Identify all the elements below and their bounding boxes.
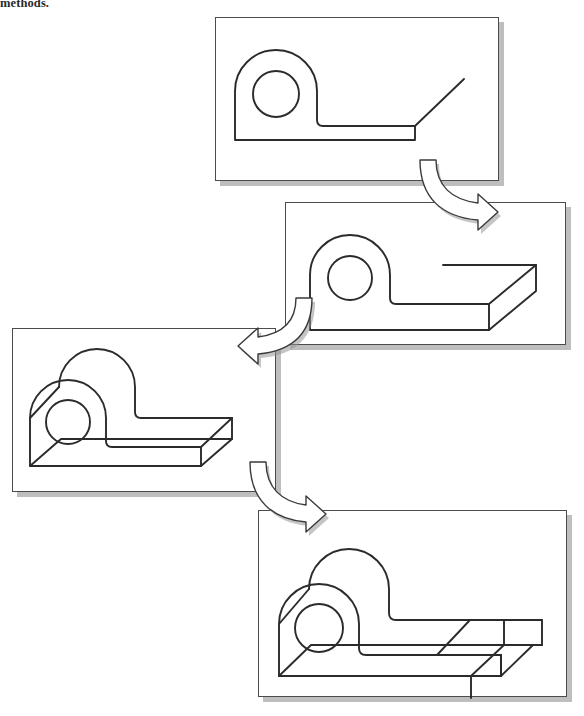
panel-1-drawing [216,18,500,182]
figure-root: methods. [0,0,584,716]
slot-left-inner-edge [437,620,470,655]
extrusion-direction-line [415,79,464,126]
caption-text: methods. [0,0,49,11]
panel-step-4 [258,510,567,697]
base-front-right-chamfer [501,645,533,676]
profile-outline [235,50,415,140]
bore-circle [328,256,372,300]
bore-circle [253,71,299,117]
panel-3-drawing [13,329,277,493]
panel-step-3 [12,328,276,492]
panel-step-1 [215,17,499,181]
base-back-bottom-edge [279,645,504,676]
panel-4-drawing [259,511,568,698]
panel-2-drawing [286,203,567,346]
profile-front-face [279,584,501,676]
profile-front-face [310,235,489,330]
profile-front-face [30,380,201,466]
bore-circle [46,400,90,444]
boss-tangent-edge [30,387,59,418]
panel-step-2 [285,202,566,345]
plate-top-face [443,265,536,304]
slot-right-wall-front-edge [471,645,504,676]
